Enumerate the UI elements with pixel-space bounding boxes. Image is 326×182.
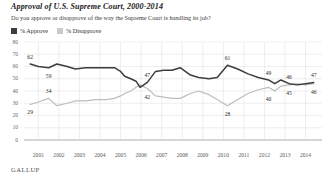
data-point-label: 29 [27, 109, 33, 115]
data-point-label: 34 [46, 88, 52, 94]
y-axis-tick-label: 0 [5, 137, 18, 143]
y-axis-tick-label: 20 [5, 112, 18, 118]
y-axis-tick-label: 30 [5, 100, 18, 106]
x-axis-tick-label: 2014 [300, 152, 311, 158]
legend-swatch-disapprove-icon [57, 28, 63, 34]
legend-swatch-approve-icon [11, 28, 17, 34]
gallup-chart-card: Approval of U.S. Supreme Court, 2000-201… [0, 0, 326, 182]
x-axis-tick-label: 2008 [177, 152, 188, 158]
data-point-label: 46 [311, 89, 317, 95]
y-axis-tick-label: 40 [5, 88, 18, 94]
chart-subtitle: Do you approve or disapprove of the way … [11, 14, 211, 21]
x-axis-tick-label: 2005 [115, 152, 126, 158]
data-point-label: 46 [286, 74, 292, 80]
data-point-label: 47 [311, 72, 317, 78]
x-axis-tick-label: 2004 [94, 152, 105, 158]
legend-item-disapprove: % Disapprove [57, 27, 101, 34]
y-axis-tick-label: 50 [5, 75, 18, 81]
legend-item-approve: % Approve [11, 27, 48, 34]
data-point-label: 59 [46, 73, 52, 79]
y-axis-tick-label: 80 [5, 39, 18, 45]
data-point-label: 62 [27, 54, 33, 60]
page-title: Approval of U.S. Supreme Court, 2000-201… [11, 2, 163, 11]
data-point-label: 49 [266, 70, 272, 76]
data-point-label: 28 [225, 111, 231, 117]
x-axis-tick-label: 2010 [218, 152, 229, 158]
series-line-disapprove [30, 84, 314, 106]
data-point-label: 45 [286, 90, 292, 96]
data-point-label: 61 [225, 55, 231, 61]
x-axis-tick-label: 2002 [53, 152, 64, 158]
source-attribution: GALLUP [11, 166, 40, 173]
x-axis-tick-label: 2001 [33, 152, 44, 158]
legend-label-disapprove: % Disapprove [66, 27, 101, 34]
x-axis-tick-label: 2009 [197, 152, 208, 158]
x-axis-tick-label: 2006 [136, 152, 147, 158]
plot-area: 80706050403020100 6259476149464729344228… [0, 38, 326, 150]
data-point-label: 40 [266, 96, 272, 102]
legend-label-approve: % Approve [20, 27, 48, 34]
x-axis-tick-label: 2013 [279, 152, 290, 158]
x-axis-tick-label: 2007 [156, 152, 167, 158]
x-axis-tick-label: 2003 [74, 152, 85, 158]
y-axis-tick-label: 70 [5, 51, 18, 57]
grid-lines [24, 42, 322, 140]
data-point-label: 42 [145, 94, 151, 100]
x-axis-tick-label: 2011 [238, 152, 249, 158]
x-axis-tick-label: 2012 [259, 152, 270, 158]
data-point-label: 47 [145, 72, 151, 78]
x-axis-labels: 2001200220032004200520062007200820092010… [0, 150, 326, 162]
y-axis-tick-label: 60 [5, 63, 18, 69]
y-axis-tick-label: 10 [5, 124, 18, 130]
chart-legend: % Approve % Disapprove [11, 27, 101, 34]
